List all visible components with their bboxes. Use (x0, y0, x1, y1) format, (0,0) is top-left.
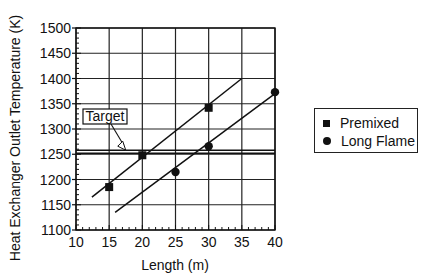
grid-lines (76, 28, 275, 230)
square-marker-icon (323, 120, 330, 127)
y-tick-label: 1150 (41, 197, 71, 213)
x-tick-label: 35 (234, 234, 250, 250)
square-marker-icon (105, 183, 113, 191)
x-axis-title: Length (m) (141, 257, 209, 273)
legend-label: Premixed (340, 115, 399, 131)
circle-marker-icon (171, 168, 179, 176)
y-tick-label: 1350 (40, 96, 71, 112)
y-tick-label: 1500 (40, 20, 71, 36)
x-tick-label: 20 (135, 234, 151, 250)
x-tick-label: 30 (201, 234, 217, 250)
y-tick-label: 1450 (40, 45, 71, 61)
y-axis-title: Heat Exchanger Outlet Temperature (K) (7, 15, 23, 261)
legend-item-premixed: Premixed (323, 115, 399, 131)
legend-item-long-flame: Long Flame (323, 133, 415, 149)
y-tick-label: 1100 (41, 222, 71, 238)
x-tick-label: 25 (168, 234, 184, 250)
square-marker-icon (205, 104, 213, 112)
square-marker-icon (138, 151, 146, 159)
legend: Premixed Long Flame (314, 108, 418, 153)
circle-marker-icon (271, 88, 279, 96)
x-tick-label: 40 (267, 234, 283, 250)
y-tick-label: 1200 (40, 172, 71, 188)
circle-marker-icon (323, 137, 331, 145)
y-tick-label: 1250 (40, 146, 71, 162)
x-tick-label: 15 (101, 234, 117, 250)
y-tick-label: 1300 (40, 121, 71, 137)
arrow-head-icon (118, 141, 126, 150)
y-tick-label: 1400 (40, 71, 71, 87)
legend-label: Long Flame (341, 133, 415, 149)
circle-marker-icon (204, 142, 212, 150)
target-label: Target (86, 108, 125, 124)
